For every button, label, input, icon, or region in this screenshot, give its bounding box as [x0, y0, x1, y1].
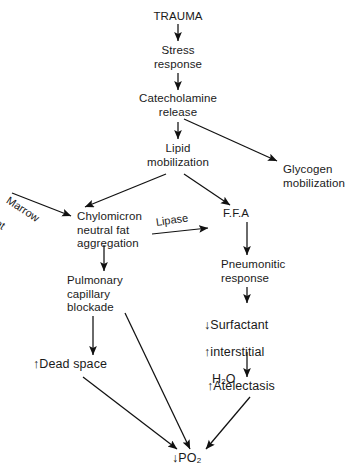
node-catecholamine-release: Catecholamine release — [139, 92, 217, 119]
node-ffa: F.F.A — [223, 207, 249, 221]
node-glycogen-mobilization: Glycogen mobilization — [283, 163, 345, 190]
node-trauma: TRAUMA — [153, 10, 202, 24]
dead-space-label: Dead space — [39, 357, 107, 371]
node-stress-response: Stress response — [154, 44, 202, 71]
arrow-pulmonary-to-po2 — [125, 313, 190, 449]
arrow-lipase — [152, 228, 208, 234]
arrow-layer — [0, 0, 356, 476]
arrow-lipid-to-chylomicron — [85, 174, 166, 207]
po2-label: PO — [178, 451, 196, 465]
po2-subscript: 2 — [197, 456, 202, 465]
surfactant-label: Surfactant — [210, 318, 268, 332]
flowchart-canvas: TRAUMA Stress response Catecholamine rel… — [0, 0, 356, 476]
atelectasis-label: Atelectasis — [213, 379, 275, 393]
surfactant-line-2: ↑interstitial — [204, 346, 268, 360]
node-chylomicron-neutral-fat-aggregation: Chylomicron neutral fat aggregation — [77, 210, 142, 251]
node-lipid-mobilization: Lipid mobilization — [147, 142, 209, 169]
arrow-dead-space-to-po2 — [83, 377, 177, 449]
node-dead-space: ↑Dead space — [33, 358, 107, 372]
marrow-line-1: Marrow — [4, 193, 42, 223]
arrow-atelectasis-to-po2 — [206, 397, 250, 449]
marrow-line-2: fat — [0, 214, 28, 244]
node-atelectasis: ↑Atelectasis — [207, 380, 275, 394]
interstitial-label: interstitial — [210, 345, 264, 359]
node-pneumonitic-response: Pneumonitic response — [221, 258, 285, 285]
arrow-lipid-to-ffa — [184, 174, 230, 205]
node-pulmonary-capillary-blockade: Pulmonary capillary blockade — [67, 274, 123, 315]
surfactant-line-1: ↓Surfactant — [204, 319, 268, 333]
node-po2: ↓PO2 — [172, 452, 201, 468]
